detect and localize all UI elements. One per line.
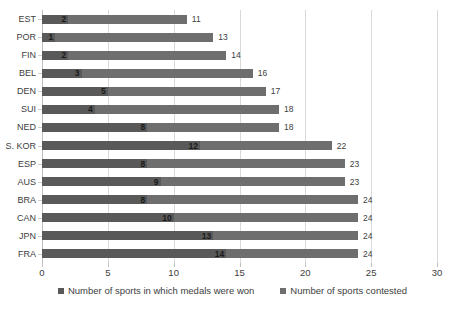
legend-item[interactable]: Number of sports in which medals were wo… [58, 286, 254, 296]
x-tick-label: 5 [105, 268, 110, 278]
x-tick-label: 25 [366, 268, 377, 278]
x-tick-label: 0 [39, 268, 44, 278]
stacked-bar-chart: EST211POR113FIN214BEL316DEN517SUI418NED8… [0, 0, 465, 311]
x-axis: 051015202530 [0, 0, 465, 311]
legend-label: Number of sports in which medals were wo… [68, 286, 254, 296]
chart-legend: Number of sports in which medals were wo… [0, 286, 465, 296]
legend-label: Number of sports contested [290, 286, 407, 296]
x-tick-label: 20 [300, 268, 311, 278]
x-tick-label: 10 [168, 268, 179, 278]
x-tick-label: 30 [432, 268, 443, 278]
square-marker [280, 288, 286, 294]
x-tick-label: 15 [234, 268, 245, 278]
legend-item[interactable]: Number of sports contested [280, 286, 407, 296]
square-marker [58, 288, 64, 294]
